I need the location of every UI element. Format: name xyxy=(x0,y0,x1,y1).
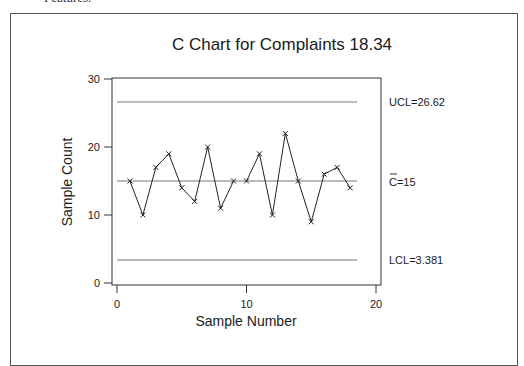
x-marker-icon xyxy=(335,165,340,170)
ucl-label: UCL=26.62 xyxy=(389,96,445,108)
y-tick-label: 0 xyxy=(94,277,100,289)
y-axis-label: Sample Count xyxy=(59,138,75,227)
x-axis: 01020 xyxy=(114,285,382,310)
x-axis-label: Sample Number xyxy=(195,313,296,329)
y-tick-label: 30 xyxy=(88,73,100,85)
x-tick-label: 20 xyxy=(370,298,382,310)
control-limits xyxy=(117,102,357,260)
x-marker-icon xyxy=(348,185,353,190)
lcl-label: LCL=3.381 xyxy=(389,254,443,266)
y-axis: 0102030 xyxy=(88,73,112,289)
y-tick-label: 20 xyxy=(88,141,100,153)
data-series xyxy=(127,131,352,224)
x-tick-label: 10 xyxy=(240,298,252,310)
chart-title: C Chart for Complaints 18.34 xyxy=(172,35,392,54)
x-marker-icon xyxy=(166,151,171,156)
x-tick-label: 0 xyxy=(114,298,120,310)
series-line xyxy=(247,133,351,221)
x-marker-icon xyxy=(179,185,184,190)
y-tick-label: 10 xyxy=(88,209,100,221)
center-line-label: C=15 xyxy=(389,176,416,188)
